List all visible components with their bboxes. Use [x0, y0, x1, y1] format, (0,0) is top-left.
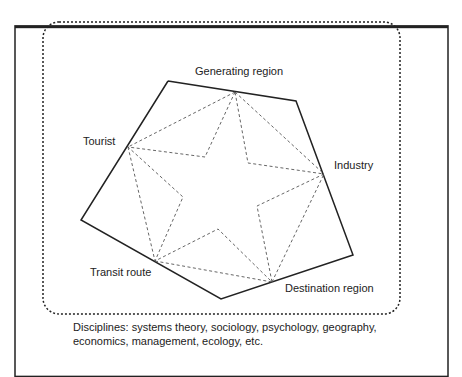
label-transit-route: Transit route: [90, 266, 151, 278]
interaction-star: [128, 92, 324, 282]
label-generating-region: Generating region: [195, 65, 283, 77]
label-industry: Industry: [334, 159, 373, 171]
caption-line-2: economics, management, ecology, etc.: [73, 334, 377, 348]
disciplines-caption: Disciplines: systems theory, sociology, …: [73, 320, 377, 348]
caption-line-1: Disciplines: systems theory, sociology, …: [73, 320, 377, 334]
label-destination-region: Destination region: [285, 282, 374, 294]
label-tourist: Tourist: [83, 135, 115, 147]
